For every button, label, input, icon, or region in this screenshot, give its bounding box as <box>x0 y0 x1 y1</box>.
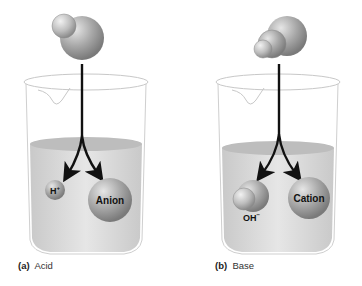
panel-base: OH− Cation <box>216 16 340 254</box>
caption-base: (b) Base <box>215 260 254 271</box>
anion-label: Anion <box>96 195 124 206</box>
base-molecule <box>254 16 307 58</box>
acid-beaker <box>24 74 148 254</box>
caption-base-text: Base <box>232 260 254 271</box>
anion: Anion <box>88 178 132 222</box>
cation-label: Cation <box>293 193 324 204</box>
caption-acid-letter: (a) <box>18 260 30 271</box>
hydrogen-ion: H+ <box>45 180 65 200</box>
panel-acid: H+ Anion <box>24 14 148 254</box>
acid-base-diagram: H+ Anion OH− <box>0 0 362 286</box>
caption-acid-text: Acid <box>34 260 52 271</box>
cation: Cation <box>288 177 330 219</box>
caption-acid: (a) Acid <box>18 260 53 271</box>
acid-molecule <box>52 14 104 60</box>
caption-base-letter: (b) <box>215 260 227 271</box>
